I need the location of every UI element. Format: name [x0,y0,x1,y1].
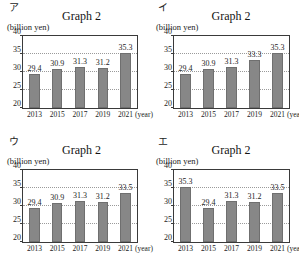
y-axis-tick-mark [20,241,23,242]
x-axis-tick-label: 2015 [50,111,65,119]
chart-panel-i: イ Graph 2 (billion yen) 202530354029.420… [149,0,299,134]
bar [249,60,260,108]
y-axis-tick-mark [20,35,23,36]
bar [180,74,191,108]
bar [52,203,62,242]
x-axis-tick-label: 2019 [247,245,262,253]
bar-value-label: 31.2 [248,193,262,201]
x-axis-tick-label: 2013 [27,111,42,119]
x-axis-tick-label: 2021 [270,111,285,119]
bar-value-label: 31.2 [96,59,110,67]
x-axis-tick-label: 2017 [224,111,239,119]
y-axis-tick-mark [171,53,174,54]
bar [75,201,85,242]
y-axis-tick-mark [20,169,23,170]
plot-area-a: 202530354029.4201330.9201531.3201731.220… [22,35,138,109]
bar [272,53,283,108]
y-axis-tick-mark [171,223,174,224]
y-axis-tick-mark [20,107,23,108]
y-axis-tick-mark [20,187,23,188]
bar-value-label: 31.3 [73,58,87,66]
bar-value-label: 33.3 [248,51,262,59]
bar [98,68,108,108]
bar [180,187,191,242]
chart-panel-u: ウ Graph 2 (billion yen) 202530354029.420… [0,134,149,269]
plot-area-e: 202530354035.3201329.4201531.3201731.220… [173,169,290,243]
bar [52,69,62,108]
plot-wrap-a: 202530354029.4201330.9201531.3201731.220… [0,0,149,134]
bar-value-label: 31.2 [96,193,110,201]
bar [75,67,85,108]
y-axis-tick-mark [171,35,174,36]
y-axis-tick-mark [171,89,174,90]
bar [203,69,214,108]
x-axis-unit-label: (year) [287,245,299,253]
y-axis-tick-mark [20,223,23,224]
bar [98,202,108,242]
x-axis-tick-label: 2017 [224,245,239,253]
plot-area-i: 202530354029.4201330.9201531.3201733.320… [173,35,290,109]
y-axis-tick-mark [171,169,174,170]
x-axis-tick-label: 2021 [118,245,133,253]
y-axis-tick-mark [20,205,23,206]
x-axis-tick-label: 2015 [50,245,65,253]
bar [120,193,130,242]
y-axis-tick-mark [171,107,174,108]
x-axis-tick-label: 2021 [270,245,285,253]
bar [203,208,214,242]
y-axis-tick-mark [20,89,23,90]
bar [29,74,39,108]
bar-value-label: 33.5 [271,184,285,192]
bar-value-label: 31.3 [73,192,87,200]
bar [29,208,39,242]
bar [226,67,237,108]
plot-wrap-i: 202530354029.4201330.9201531.3201733.320… [149,0,299,134]
bar-value-label: 30.9 [50,60,64,68]
bar-value-label: 35.3 [271,44,285,52]
x-axis-tick-label: 2019 [95,245,110,253]
plot-area-u: 202530354029.4201330.9201531.3201731.220… [22,169,138,243]
x-axis-tick-label: 2013 [27,245,42,253]
x-axis-tick-label: 2019 [95,111,110,119]
bar-value-label: 31.3 [225,58,239,66]
x-axis-tick-label: 2019 [247,111,262,119]
y-axis-tick-mark [171,241,174,242]
bar [249,202,260,242]
bar-value-label: 35.3 [119,44,133,52]
chart-panel-e: エ Graph 2 (billion yen) 202530354035.320… [149,134,299,269]
plot-wrap-e: 202530354035.3201329.4201531.3201731.220… [149,134,299,269]
plot-wrap-u: 202530354029.4201330.9201531.3201731.220… [0,134,149,269]
bar [120,53,130,108]
bar-value-label: 33.5 [119,184,133,192]
x-axis-tick-label: 2017 [73,111,88,119]
x-axis-tick-label: 2013 [178,111,193,119]
bar-value-label: 29.4 [27,65,41,73]
bar-value-label: 31.3 [225,192,239,200]
chart-panel-a: ア Graph 2 (billion yen) 202530354029.420… [0,0,149,134]
y-axis-tick-mark [171,187,174,188]
panel-grid: ア Graph 2 (billion yen) 202530354029.420… [0,0,299,269]
y-axis-tick-mark [171,205,174,206]
y-axis-tick-mark [20,53,23,54]
bar [272,193,283,242]
x-axis-tick-label: 2021 [118,111,133,119]
bar-value-label: 35.3 [179,178,193,186]
y-axis-tick-mark [20,71,23,72]
bar-value-label: 29.4 [202,199,216,207]
bar-value-label: 29.4 [179,65,193,73]
x-axis-tick-label: 2015 [201,245,216,253]
x-axis-unit-label: (year) [287,111,299,119]
x-axis-tick-label: 2015 [201,111,216,119]
bar [226,201,237,242]
figure-sheet: ア Graph 2 (billion yen) 202530354029.420… [0,0,299,269]
bar-value-label: 30.9 [202,60,216,68]
x-axis-tick-label: 2013 [178,245,193,253]
x-axis-tick-label: 2017 [73,245,88,253]
bar-value-label: 29.4 [27,199,41,207]
y-axis-tick-mark [171,71,174,72]
bar-value-label: 30.9 [50,194,64,202]
